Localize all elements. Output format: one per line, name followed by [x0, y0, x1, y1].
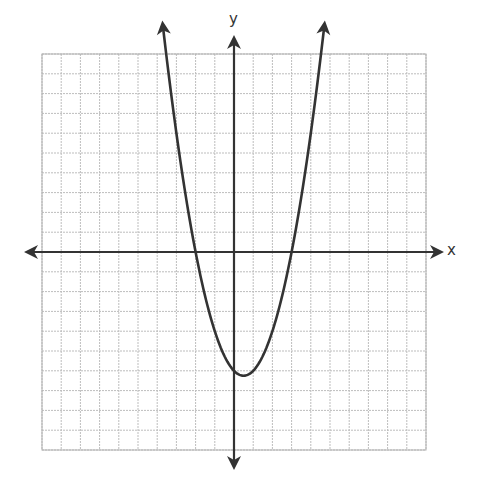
parabola-path	[163, 26, 324, 375]
coordinate-plane	[0, 0, 478, 504]
y-axis-label: y	[229, 12, 238, 27]
graph: x y	[0, 0, 478, 504]
x-axis-label: x	[447, 243, 456, 258]
axes	[24, 35, 444, 470]
